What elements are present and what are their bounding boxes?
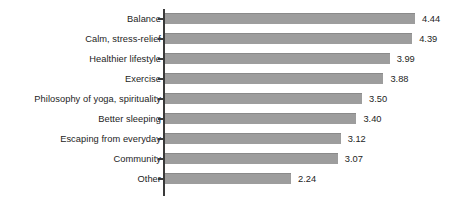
bar-track — [165, 93, 362, 104]
category-label: Escaping from everyday — [60, 129, 161, 149]
axis-tick — [158, 158, 164, 160]
bar — [165, 53, 390, 64]
axis-tick — [158, 138, 164, 140]
category-label: Community — [114, 149, 161, 169]
bar-value-label: 4.39 — [419, 29, 437, 49]
bar-track — [165, 53, 390, 64]
category-label: Balance — [127, 9, 161, 29]
bar — [165, 33, 412, 44]
bar-track — [165, 113, 356, 124]
bar-row: Balance 4.44 — [0, 9, 456, 29]
bar — [165, 173, 291, 184]
bar-row: Exercise 3.88 — [0, 69, 456, 89]
bar-track — [165, 173, 291, 184]
category-label: Philosophy of yoga, spirituality — [34, 89, 161, 109]
axis-tick — [158, 78, 164, 80]
bar-value-label: 3.88 — [390, 69, 408, 89]
bar-value-label: 3.40 — [363, 109, 381, 129]
category-label: Better sleeping — [98, 109, 161, 129]
bar-track — [165, 153, 338, 164]
bar — [165, 73, 383, 84]
bar-value-label: 2.24 — [298, 169, 316, 189]
bar-value-label: 3.07 — [345, 149, 363, 169]
axis-tick — [158, 18, 164, 20]
bar-value-label: 3.99 — [397, 49, 415, 69]
bar-value-label: 3.12 — [348, 129, 366, 149]
category-label: Calm, stress-relief — [85, 29, 161, 49]
category-label: Healthier lifestyle — [89, 49, 161, 69]
bar-row: Calm, stress-relief 4.39 — [0, 29, 456, 49]
bar-row: Escaping from everyday 3.12 — [0, 129, 456, 149]
bar — [165, 13, 415, 24]
axis-tick — [158, 58, 164, 60]
bar-chart: Balance 4.44 Calm, stress-relief 4.39 He… — [0, 0, 456, 207]
bar-track — [165, 13, 415, 24]
axis-tick — [158, 118, 164, 120]
bar-row: Community 3.07 — [0, 149, 456, 169]
bar-track — [165, 33, 412, 44]
bar-value-label: 3.50 — [369, 89, 387, 109]
bar-row: Other 2.24 — [0, 169, 456, 189]
bar — [165, 93, 362, 104]
bar-row: Philosophy of yoga, spirituality 3.50 — [0, 89, 456, 109]
axis-tick — [158, 38, 164, 40]
bar-track — [165, 133, 341, 144]
bar-rows: Balance 4.44 Calm, stress-relief 4.39 He… — [0, 9, 456, 189]
bar-row: Better sleeping 3.40 — [0, 109, 456, 129]
bar-value-label: 4.44 — [422, 9, 440, 29]
bar — [165, 113, 356, 124]
bar — [165, 133, 341, 144]
bar — [165, 153, 338, 164]
category-label: Exercise — [125, 69, 161, 89]
bar-track — [165, 73, 383, 84]
axis-tick — [158, 98, 164, 100]
axis-tick — [158, 178, 164, 180]
bar-row: Healthier lifestyle 3.99 — [0, 49, 456, 69]
